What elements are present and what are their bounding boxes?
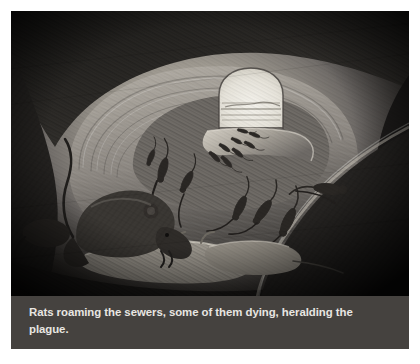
illustration-svg [11, 11, 409, 297]
figure-container: Rats roaming the sewers, some of them dy… [11, 11, 409, 349]
figure-caption-text: Rats roaming the sewers, some of them dy… [29, 304, 387, 338]
figure-caption-band: Rats roaming the sewers, some of them dy… [11, 296, 409, 349]
illustration-sewer-rats [11, 11, 409, 297]
